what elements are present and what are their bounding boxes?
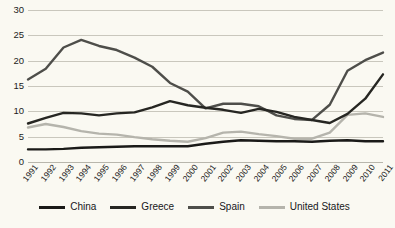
chart-legend: ChinaGreeceSpainUnited States: [0, 198, 389, 216]
y-tick-label-10: 10: [13, 107, 24, 117]
series-line-china: [28, 140, 383, 149]
x-tick-label-2007: 2007: [305, 163, 323, 183]
x-tick-label-2011: 2011: [377, 163, 395, 183]
legend-item-china[interactable]: China: [39, 202, 96, 212]
y-axis: 051015202530: [0, 10, 24, 162]
x-tick-label-2006: 2006: [288, 163, 306, 183]
x-tick-label-1991: 1991: [21, 163, 39, 183]
x-tick-label-2010: 2010: [359, 163, 377, 183]
x-tick-label-2003: 2003: [234, 163, 252, 183]
x-tick-label-1992: 1992: [39, 163, 57, 183]
x-tick-label-1995: 1995: [92, 163, 110, 183]
x-tick-label-2005: 2005: [270, 163, 288, 183]
series-line-greece: [28, 74, 383, 123]
y-tick-label-20: 20: [13, 56, 24, 66]
x-axis: 1991199219931994199519961997199819992000…: [28, 163, 383, 197]
x-tick-label-2000: 2000: [181, 163, 199, 183]
x-tick-label-1999: 1999: [163, 163, 181, 183]
x-tick-label-1997: 1997: [128, 163, 146, 183]
legend-swatch-icon: [39, 206, 65, 209]
legend-item-spain[interactable]: Spain: [188, 202, 245, 212]
y-tick-label-30: 30: [13, 5, 24, 15]
x-tick-label-1998: 1998: [146, 163, 164, 183]
legend-swatch-icon: [110, 206, 136, 209]
series-layer: [28, 10, 383, 162]
y-tick-label-5: 5: [19, 132, 24, 142]
legend-item-united-states[interactable]: United States: [259, 202, 350, 212]
x-tick-label-2008: 2008: [323, 163, 341, 183]
x-tick-label-2009: 2009: [341, 163, 359, 183]
y-tick-label-25: 25: [13, 31, 24, 41]
y-tick-label-0: 0: [19, 157, 24, 167]
legend-label: Spain: [219, 202, 245, 212]
x-tick-label-1996: 1996: [110, 163, 128, 183]
caption-sliver: [0, 220, 389, 228]
legend-label: Greece: [141, 202, 174, 212]
x-tick-label-2004: 2004: [252, 163, 270, 183]
series-line-united-states: [28, 113, 383, 141]
legend-swatch-icon: [188, 206, 214, 209]
x-tick-label-2001: 2001: [199, 163, 217, 183]
legend-item-greece[interactable]: Greece: [110, 202, 174, 212]
x-tick-label-2002: 2002: [217, 163, 235, 183]
y-tick-label-15: 15: [13, 81, 24, 91]
x-tick-label-1993: 1993: [57, 163, 75, 183]
legend-label: United States: [290, 202, 350, 212]
legend-swatch-icon: [259, 206, 285, 209]
legend-label: China: [70, 202, 96, 212]
plot-area: [28, 10, 383, 162]
x-tick-label-1994: 1994: [75, 163, 93, 183]
